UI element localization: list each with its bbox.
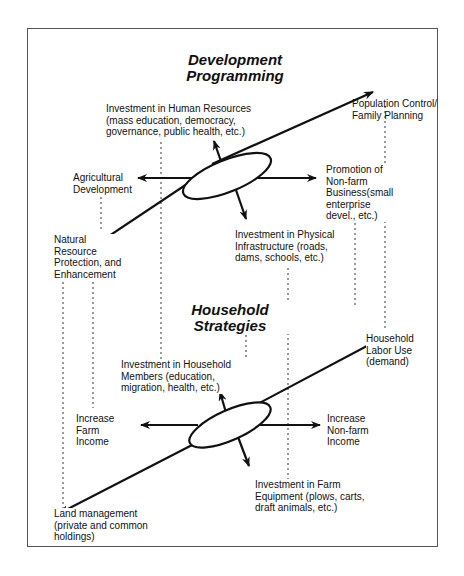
- label-increase-non-farm-income: Increase Non-farm Income: [327, 413, 369, 448]
- label-land-management: Land management (private and common hold…: [54, 508, 148, 543]
- label-population-control: Population Control/ Family Planning: [352, 98, 437, 121]
- label-physical-infrastructure: Investment in Physical Infrastructure (r…: [235, 229, 335, 264]
- label-natural-resource: Natural Resource Protection, and Enhance…: [54, 234, 121, 280]
- development-programming-title: Development Programming: [165, 52, 305, 84]
- diagram-canvas: [0, 0, 464, 576]
- label-farm-equipment: Investment in Farm Equipment (plows, car…: [255, 479, 365, 514]
- label-agricultural-development: Agricultural Development: [73, 172, 132, 195]
- label-household-labor: Household Labor Use (demand): [366, 333, 414, 368]
- label-increase-farm-income: Increase Farm Income: [76, 413, 114, 448]
- label-household-members: Investment in Household Members (educati…: [121, 359, 231, 394]
- label-non-farm-business: Promotion of Non-farm Business(small ent…: [326, 164, 393, 222]
- label-human-resources: Investment in Human Resources (mass educ…: [106, 103, 251, 138]
- household-strategies-title: Household Strategies: [170, 302, 290, 334]
